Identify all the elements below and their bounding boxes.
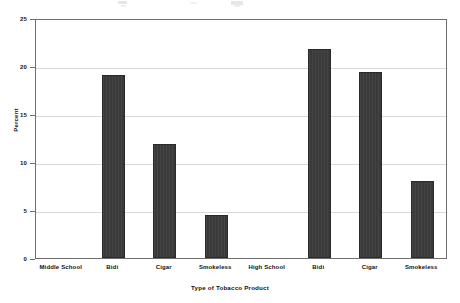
y-tick-label: 5: [23, 208, 27, 214]
gridline: [36, 212, 446, 213]
gridline: [36, 116, 446, 117]
x-tick-label: High School: [241, 264, 293, 270]
bar: [205, 215, 228, 258]
y-axis-title: Percent: [13, 108, 19, 131]
gridline: [36, 164, 446, 165]
bar: [153, 144, 176, 258]
bar: [359, 72, 382, 258]
bar-chart: 0510152025 Percent Middle SchoolBidiCiga…: [0, 0, 460, 303]
y-tick-label: 20: [20, 64, 27, 70]
y-tick-label: 0: [23, 256, 27, 262]
x-tick-label: Cigar: [344, 264, 396, 270]
y-tick-label: 15: [20, 112, 27, 118]
x-tick-label: Smokeless: [190, 264, 242, 270]
x-tick-label: Bidi: [87, 264, 139, 270]
bar: [102, 75, 125, 258]
bar: [411, 181, 434, 258]
y-tick-label: 10: [20, 160, 27, 166]
x-tick-label: Smokeless: [396, 264, 448, 270]
bar: [308, 49, 331, 258]
x-axis-title: Type of Tobacco Product: [0, 284, 460, 291]
x-tick-label: Middle School: [35, 264, 87, 270]
gridline: [36, 68, 446, 69]
x-tick-label: Cigar: [138, 264, 190, 270]
x-tick-label: Bidi: [293, 264, 345, 270]
y-tick-mark: [30, 259, 35, 260]
x-axis: Middle SchoolBidiCigarSmokelessHigh Scho…: [35, 264, 447, 278]
y-tick-label: 25: [20, 16, 27, 22]
y-axis: 0510152025: [0, 0, 35, 303]
plot-area: [35, 19, 447, 259]
